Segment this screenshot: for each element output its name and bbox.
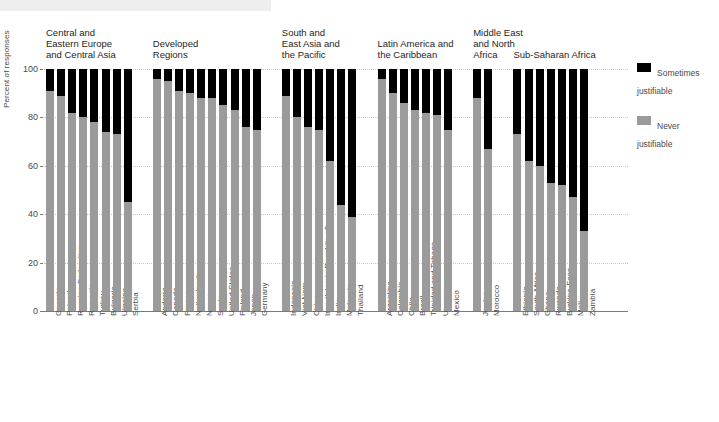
- bar-segment-sometimes-justifiable: [433, 69, 441, 115]
- bar-segment-sometimes-justifiable: [153, 69, 161, 79]
- bar-segment-never-justifiable: [153, 79, 161, 311]
- bar-segment-never-justifiable: [175, 91, 183, 311]
- bar: [90, 69, 98, 311]
- bar-segment-sometimes-justifiable: [231, 69, 239, 110]
- bar-segment-never-justifiable: [326, 161, 334, 311]
- bar: [242, 69, 250, 311]
- bar-segment-sometimes-justifiable: [242, 69, 250, 127]
- bar-segment-never-justifiable: [569, 197, 577, 311]
- bar-segment-never-justifiable: [164, 81, 172, 311]
- bar-segment-sometimes-justifiable: [253, 69, 261, 130]
- region-group-title: Latin America and the Caribbean: [378, 38, 454, 60]
- bar-segment-sometimes-justifiable: [558, 69, 566, 185]
- bar-segment-sometimes-justifiable: [68, 69, 76, 113]
- bar-segment-sometimes-justifiable: [513, 69, 521, 134]
- bar: [378, 69, 386, 311]
- bar-segment-never-justifiable: [242, 127, 250, 311]
- bar-segment-sometimes-justifiable: [411, 69, 419, 110]
- bar-segment-sometimes-justifiable: [315, 69, 323, 130]
- bar: [348, 69, 356, 311]
- bar-segment-sometimes-justifiable: [326, 69, 334, 161]
- x-axis-category-label: Germany: [260, 282, 269, 316]
- stacked-bar-chart: Percent of responses 020406080100 Georgi…: [0, 0, 719, 422]
- bar-segment-sometimes-justifiable: [293, 69, 301, 117]
- bar: [282, 69, 290, 311]
- bar-segment-never-justifiable: [304, 127, 312, 311]
- chart-legend: Sometimes justifiableNever justifiable: [637, 62, 719, 168]
- bar-segment-never-justifiable: [197, 98, 205, 311]
- bar: [315, 69, 323, 311]
- bar-segment-sometimes-justifiable: [197, 69, 205, 98]
- bar-segment-never-justifiable: [231, 110, 239, 311]
- bar-segment-sometimes-justifiable: [525, 69, 533, 161]
- bar-segment-never-justifiable: [389, 93, 397, 311]
- bar-segment-sometimes-justifiable: [389, 69, 397, 93]
- bar: [389, 69, 397, 311]
- bar-segment-never-justifiable: [102, 132, 110, 311]
- bar: [231, 69, 239, 311]
- bar-segment-never-justifiable: [411, 110, 419, 311]
- y-axis-tick-mark: [40, 117, 43, 118]
- y-axis-tick-mark: [40, 69, 43, 70]
- bar-segment-never-justifiable: [433, 115, 441, 311]
- bar: [580, 69, 588, 311]
- bar: [304, 69, 312, 311]
- bar-segment-sometimes-justifiable: [175, 69, 183, 91]
- bar: [79, 69, 87, 311]
- bar-segment-sometimes-justifiable: [46, 69, 54, 91]
- bar: [186, 69, 194, 311]
- legend-item: Never justifiable: [637, 115, 719, 151]
- bar-segment-sometimes-justifiable: [422, 69, 430, 113]
- region-group-title: South and East Asia and the Pacific: [282, 27, 340, 60]
- legend-item-label: Never justifiable: [637, 121, 680, 149]
- bar-segment-sometimes-justifiable: [219, 69, 227, 105]
- bar: [68, 69, 76, 311]
- legend-color-swatch: [637, 116, 651, 125]
- bar: [547, 69, 555, 311]
- bar: [113, 69, 121, 311]
- bar-segment-sometimes-justifiable: [400, 69, 408, 103]
- y-axis-tick-mark: [40, 263, 43, 264]
- bar: [433, 69, 441, 311]
- plot-area: GeorgiaPolandRussian FederationRomaniaTu…: [0, 0, 719, 422]
- x-axis-category-label: Mexico: [452, 290, 461, 316]
- bar: [513, 69, 521, 311]
- bar: [293, 69, 301, 311]
- bar: [444, 69, 452, 311]
- bar-segment-sometimes-justifiable: [536, 69, 544, 166]
- bar-segment-sometimes-justifiable: [124, 69, 132, 202]
- bar-segment-never-justifiable: [68, 113, 76, 311]
- bar: [536, 69, 544, 311]
- bar: [484, 69, 492, 311]
- bar-segment-never-justifiable: [186, 93, 194, 311]
- bar-segment-never-justifiable: [90, 122, 98, 311]
- region-group-title: Developed Regions: [153, 38, 198, 60]
- x-axis-category-label: Serbia: [131, 292, 140, 316]
- bar: [337, 69, 345, 311]
- bar-segment-never-justifiable: [113, 134, 121, 311]
- legend-item-label: Sometimes justifiable: [637, 68, 700, 96]
- bar-segment-sometimes-justifiable: [186, 69, 194, 93]
- bar: [46, 69, 54, 311]
- bar-segment-never-justifiable: [57, 96, 65, 311]
- bar-segment-never-justifiable: [378, 79, 386, 311]
- bar-segment-never-justifiable: [208, 98, 216, 311]
- bar-segment-sometimes-justifiable: [57, 69, 65, 96]
- bar-segment-sometimes-justifiable: [473, 69, 481, 98]
- bar-segment-sometimes-justifiable: [282, 69, 290, 96]
- bar: [175, 69, 183, 311]
- x-axis-category-label: Morocco: [492, 285, 501, 316]
- bar: [102, 69, 110, 311]
- bar-segment-never-justifiable: [473, 98, 481, 311]
- bar-segment-never-justifiable: [46, 91, 54, 311]
- bar-segment-never-justifiable: [444, 130, 452, 312]
- bar-segment-sometimes-justifiable: [569, 69, 577, 197]
- bar-segment-never-justifiable: [79, 117, 87, 311]
- bar-segment-never-justifiable: [536, 166, 544, 311]
- bar: [164, 69, 172, 311]
- bar-segment-sometimes-justifiable: [304, 69, 312, 127]
- bar-segment-never-justifiable: [580, 231, 588, 311]
- y-axis-tick-mark: [40, 214, 43, 215]
- x-axis-category-label: Zambia: [588, 289, 597, 316]
- legend-item: Sometimes justifiable: [637, 62, 719, 98]
